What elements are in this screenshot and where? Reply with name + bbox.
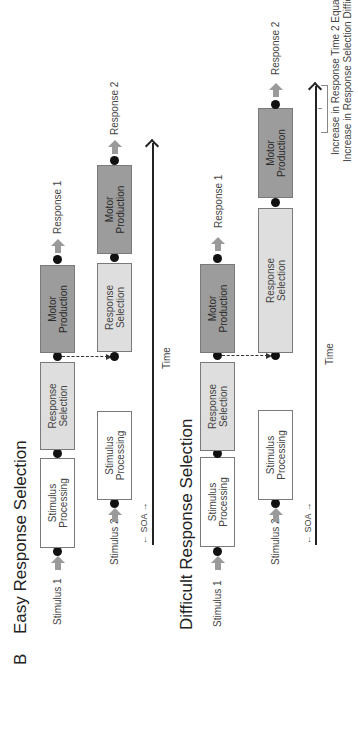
easy-task1-dot-sp-rs — [53, 449, 62, 458]
difficult-task2-stimulus-processing: StimulusProcessing — [258, 410, 293, 500]
easy-task2-dot-rs-mp — [110, 253, 119, 262]
difficult-stimulus1-arrow-icon — [215, 562, 221, 570]
easy-task1-stimulus-processing: StimulusProcessing — [40, 458, 75, 548]
easy-task1-dot-rs-mp — [53, 352, 62, 361]
difficult-bottleneck-dashed-arrow — [222, 355, 268, 356]
difficult-response2-label: Response 2 — [270, 22, 282, 75]
easy-time-label: Time — [161, 347, 173, 369]
rt2-increase-bracket-tick — [318, 108, 322, 109]
easy-stimulus2-label: Stimulus 2 — [109, 518, 121, 565]
easy-task1-response-selection: ResponseSelection — [40, 362, 75, 450]
rt2-increase-note-line1: Increase in Response Time 2 Equal to — [330, 0, 341, 155]
rt2-increase-bracket — [321, 85, 328, 133]
difficult-response1-label: Response 1 — [213, 175, 225, 228]
easy-response1-dot — [53, 255, 62, 264]
easy-stimulus1-label: Stimulus 1 — [52, 578, 64, 625]
psychological-refractory-period-diagram: B Easy Response Selection Stimulus 1 Sti… — [0, 0, 358, 737]
difficult-response2-arrow-icon — [273, 89, 279, 97]
difficult-stimulus2-label: Stimulus 2 — [270, 518, 282, 565]
easy-response2-label: Response 2 — [109, 82, 121, 135]
difficult-task2-response-selection: ResponseSelection — [258, 208, 293, 353]
difficult-task1-response-selection: ResponseSelection — [200, 362, 235, 451]
easy-soa-label: ← SOA → — [139, 502, 149, 544]
difficult-response1-arrow-icon — [215, 243, 221, 251]
easy-bottleneck-dashed-arrow — [62, 356, 108, 357]
difficult-stimulus1-dot — [213, 547, 222, 556]
difficult-task2-motor-production: MotorProduction — [258, 108, 293, 198]
panel-letter: B — [12, 654, 30, 665]
difficult-time-axis-arrow — [315, 86, 317, 545]
easy-stimulus2-dot — [110, 499, 119, 508]
easy-response2-arrow-icon — [112, 146, 118, 154]
easy-response1-label: Response 1 — [52, 181, 64, 234]
difficult-response2-dot — [271, 100, 280, 109]
easy-stimulus1-dot — [53, 547, 62, 556]
easy-stimulus1-arrow-icon — [55, 562, 61, 570]
easy-task2-motor-production: MotorProduction — [97, 165, 132, 254]
easy-task2-stimulus-processing: StimulusProcessing — [97, 411, 132, 500]
easy-response1-arrow-icon — [55, 245, 61, 253]
difficult-task1-motor-production: MotorProduction — [200, 264, 235, 353]
difficult-soa-label: ← SOA → — [303, 502, 313, 544]
difficult-task2-dot-rs-mp — [271, 198, 280, 207]
difficult-stimulus2-arrow-icon — [273, 514, 279, 522]
difficult-stimulus2-dot — [271, 499, 280, 508]
difficult-section-title: Difficult Response Selection — [178, 419, 196, 630]
easy-response2-dot — [110, 156, 119, 165]
difficult-stimulus1-label: Stimulus 1 — [212, 580, 224, 627]
difficult-response1-dot — [213, 254, 222, 263]
easy-task1-motor-production: MotorProduction — [40, 265, 75, 353]
difficult-task1-stimulus-processing: StimulusProcessing — [200, 457, 235, 547]
rt2-increase-note-line2: Increase in Response Selection Difficult… — [342, 0, 353, 162]
easy-time-axis-arrow — [152, 143, 154, 545]
easy-task2-response-selection: ResponseSelection — [97, 263, 132, 352]
difficult-time-label: Time — [324, 343, 336, 365]
easy-stimulus2-arrow-icon — [112, 514, 118, 522]
easy-task2-dot-rs-start — [110, 352, 119, 361]
easy-section-title: Easy Response Selection — [12, 440, 30, 634]
